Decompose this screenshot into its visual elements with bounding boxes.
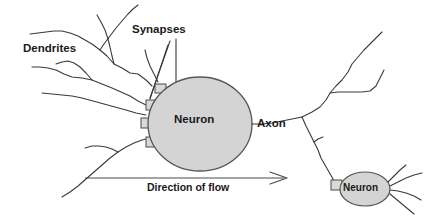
- neuron-diagram: Dendrites Synapses Neuron Axon Direction…: [0, 0, 429, 221]
- dendrite-branch-5: [145, 50, 158, 82]
- label-synapses: Synapses: [132, 24, 186, 36]
- dendrite-branch-1: [30, 31, 152, 86]
- axon-branch-down-2: [314, 137, 323, 142]
- label-direction-of-flow: Direction of flow: [147, 182, 229, 193]
- secondary-dendrite-group: [388, 165, 422, 214]
- label-dendrites: Dendrites: [23, 43, 76, 55]
- dendrite-branch-4b: [85, 146, 118, 152]
- label-neuron-secondary: Neuron: [343, 183, 378, 193]
- label-axon: Axon: [257, 118, 286, 130]
- axon-branch-down: [302, 117, 336, 184]
- dendrite-branch-1c: [97, 15, 114, 64]
- axon-group: [252, 32, 384, 184]
- secondary-dendrite-3: [390, 194, 414, 214]
- label-neuron-main: Neuron: [174, 114, 214, 126]
- axon-branch-up-2: [330, 70, 384, 93]
- axon-branch-up: [302, 32, 382, 117]
